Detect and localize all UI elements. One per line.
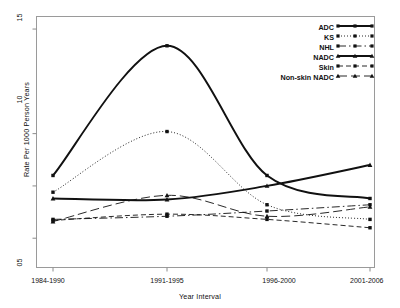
x-axis (53, 268, 370, 272)
data-point (368, 226, 371, 229)
x-tick-label-1991-1995: 1991-1995 (131, 277, 203, 284)
y-tick-label-15: 15 (16, 4, 23, 32)
data-point (165, 44, 168, 47)
line-chart-plot (0, 0, 400, 308)
legend-marker (370, 34, 373, 37)
data-point (265, 218, 268, 221)
legend-label-non-skin-nadc: Non-skin NADC (248, 73, 334, 82)
y-tick-label-10: 10 (16, 86, 23, 114)
legend-marker (353, 24, 356, 27)
x-axis-title: Year Interval (0, 292, 400, 301)
legend-marker (336, 24, 339, 27)
legend-marker (353, 34, 356, 37)
legend-label-adc: ADC (258, 23, 334, 32)
data-point (165, 212, 168, 215)
data-point (265, 174, 268, 177)
x-tick-label-1984-1990: 1984-1990 (12, 277, 84, 284)
data-point (368, 197, 371, 200)
y-axis (33, 29, 37, 238)
y-axis-title: Rate Per 1000 Person Years (22, 50, 31, 210)
data-point (265, 203, 268, 206)
legend-marker (370, 64, 373, 67)
legend-marker (336, 64, 339, 67)
data-point (265, 209, 268, 212)
legend-marker (336, 34, 339, 37)
y-tick-label-05: 05 (16, 249, 23, 277)
legend-label-skin: Skin (258, 63, 334, 72)
x-tick-label-2001-2006: 2001-2006 (350, 277, 400, 284)
data-point (51, 174, 54, 177)
legend-marker (370, 24, 373, 27)
data-point (51, 191, 54, 194)
legend-marker (353, 64, 356, 67)
legend-marker (370, 44, 373, 47)
data-point (368, 218, 371, 221)
legend-label-ks: KS (258, 33, 334, 42)
legend-label-nhl: NHL (258, 43, 334, 52)
legend-marker (353, 44, 356, 47)
legend-marker (336, 44, 339, 47)
chart-figure: Rate Per 1000 Person Years Year Interval… (0, 0, 400, 308)
data-point (165, 130, 168, 133)
legend-label-nadc: NADC (258, 53, 334, 62)
x-tick-label-1996-2000: 1996-2000 (243, 277, 315, 284)
